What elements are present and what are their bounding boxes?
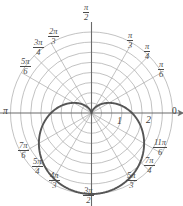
angle-label-two-pi-over-3: 2π 3 bbox=[48, 27, 59, 45]
angle-label-three-pi-over-2: 3π 2 bbox=[83, 186, 94, 204]
denominator: 6 bbox=[153, 148, 167, 157]
denominator: 6 bbox=[18, 151, 29, 160]
radial-tick-label-1: 1 bbox=[117, 116, 122, 126]
polar-grid-and-curve bbox=[0, 0, 183, 206]
denominator: 4 bbox=[32, 167, 43, 176]
angle-label-five-pi-over-6: 5π 6 bbox=[20, 57, 31, 75]
angle-label-pi-over-2: π 2 bbox=[83, 3, 89, 21]
denominator: 2 bbox=[83, 13, 89, 22]
denominator: 3 bbox=[49, 181, 60, 190]
angle-label-four-pi-over-3: 4π 3 bbox=[49, 171, 60, 189]
denominator: 6 bbox=[20, 67, 31, 76]
angle-label-pi-over-3: π 3 bbox=[127, 31, 133, 49]
angle-label-eleven-pi-over-6: 11π 6 bbox=[153, 138, 167, 156]
denominator: 3 bbox=[127, 41, 133, 50]
denominator: 3 bbox=[126, 181, 137, 190]
denominator: 6 bbox=[158, 70, 164, 79]
denominator: 4 bbox=[144, 166, 155, 175]
denominator: 4 bbox=[33, 48, 44, 57]
angle-label-five-pi-over-4: 5π 4 bbox=[32, 157, 43, 175]
denominator: 3 bbox=[48, 37, 59, 46]
denominator: 2 bbox=[83, 196, 94, 205]
angle-label-three-pi-over-4: 3π 4 bbox=[33, 38, 44, 56]
angle-label-seven-pi-over-4: 7π 4 bbox=[144, 156, 155, 174]
angle-label-seven-pi-over-6: 7π 6 bbox=[18, 141, 29, 159]
angle-label-pi: π bbox=[3, 107, 8, 117]
angle-label-five-pi-over-3: 5π 3 bbox=[126, 171, 137, 189]
polar-plot-figure: π 2 2π 3 3π 4 5π 6 π 3 π 4 π 6 π 0 7π 6 … bbox=[0, 0, 183, 206]
axis-lines bbox=[0, 22, 183, 206]
denominator: 4 bbox=[144, 52, 150, 61]
angle-label-pi-over-6: π 6 bbox=[158, 60, 164, 78]
angle-label-pi-over-4: π 4 bbox=[144, 42, 150, 60]
radial-tick-label-2: 2 bbox=[146, 115, 151, 125]
angle-label-zero: 0 bbox=[172, 107, 177, 117]
